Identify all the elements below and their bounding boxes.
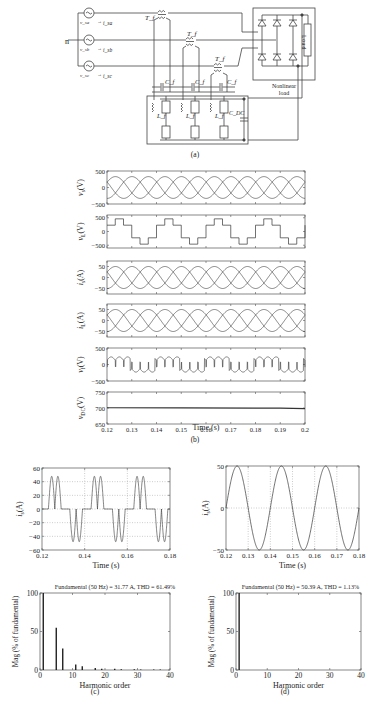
y-tick-label: 0 (102, 317, 105, 324)
x-tick-label: 0.14 (79, 552, 92, 560)
x-tick-label: 0.18 (250, 426, 261, 433)
chart-b2: 5000−500vL(V) (76, 214, 305, 249)
y-tick-label: 60 (33, 465, 41, 473)
chart-c2: 100500010203040Mag (% of fundamental)Har… (12, 583, 175, 690)
x-tick-label: 30 (326, 671, 334, 680)
y-tick-label: 50 (31, 627, 39, 636)
y-axis-label: Mag (% of fundamental) (12, 595, 20, 667)
panel-a-caption: (a) (191, 150, 200, 159)
panel-c-caption: (c) (91, 687, 100, 696)
data-series (107, 267, 305, 289)
source-c-label: v_sc (80, 73, 90, 78)
plot-frame (107, 304, 305, 337)
x-axis-label: Time (s) (279, 561, 306, 570)
load-label: Load (301, 35, 307, 50)
y-axis-label: is(A) (15, 501, 25, 517)
x-tick-label: 0.15 (286, 552, 299, 560)
x-tick-label: 0.13 (242, 552, 255, 560)
load-caption-line1: Nonlinear (272, 83, 296, 89)
y-axis-label: is(A) (201, 500, 211, 516)
x-tick-label: 30 (134, 671, 142, 680)
chart-d2: 100500010203040Mag (% of fundamental)Har… (208, 583, 365, 690)
data-series (107, 310, 305, 332)
transformer-1-label: T_f (145, 14, 155, 22)
y-tick-label: −50 (95, 285, 105, 292)
y-tick-label: 750 (95, 389, 105, 396)
chart-b4: 500−50iL(A) (76, 304, 305, 337)
arrow-a-icon: → (97, 19, 102, 24)
panel-cd-charts: 6040200−20−40−600.120.140.160.18is(A)Tim… (12, 463, 366, 690)
chart-title: Fundamental (50 Hz) = 31.77 A, THD = 61.… (55, 583, 175, 591)
plot-frame (236, 593, 361, 670)
source-a-label: v_sa (80, 20, 90, 25)
panel-b-xlabel: Time (s) (192, 423, 219, 432)
y-tick-label: 0 (221, 505, 225, 513)
y-tick-label: 50 (227, 627, 235, 636)
x-tick-label: 0.18 (353, 552, 366, 560)
x-tick-label: 40 (357, 671, 365, 680)
chart-b3: 500−50is(A) (76, 261, 305, 294)
x-tick-label: 0.14 (151, 426, 163, 433)
data-series (42, 476, 170, 541)
y-axis-label: vDC(V) (76, 396, 86, 419)
chart-title: Fundamental (50 Hz) = 50.39 A, THD = 1.1… (242, 583, 359, 591)
x-tick-label: 0 (234, 671, 238, 680)
x-tick-label: 0.12 (36, 552, 49, 560)
y-axis-label: vL(V) (76, 222, 86, 240)
filter-ind-2-label: L_f (185, 112, 196, 119)
filter-capacitor-1-icon (161, 83, 163, 91)
source-b-label: v_sb (80, 47, 90, 52)
y-tick-label: −500 (92, 378, 105, 385)
current-b-label: i_sb (103, 47, 112, 53)
filter-cap-3-label: C_f (227, 78, 238, 85)
neutral-label: n (65, 37, 69, 46)
y-tick-label: 50 (217, 463, 225, 471)
data-series (107, 267, 305, 289)
y-tick-label: 50 (99, 306, 106, 313)
y-tick-label: 50 (99, 263, 106, 270)
y-tick-label: 0 (37, 506, 41, 514)
y-tick-label: 500 (95, 168, 105, 175)
x-tick-label: 20 (295, 671, 303, 680)
x-tick-label: 0.2 (301, 426, 309, 433)
y-tick-label: 500 (95, 345, 105, 352)
filter-cap-1-label: C_f (165, 78, 176, 85)
chart-c1: 6040200−20−40−600.120.140.160.18is(A)Tim… (15, 465, 177, 570)
y-tick-label: −500 (92, 242, 105, 249)
data-series (107, 310, 305, 332)
x-tick-label: 0.19 (275, 426, 286, 433)
x-tick-label: 0.17 (331, 552, 344, 560)
panel-b-charts: 5000−500vs(V)500−50is(A)500−50iL(A)5000−… (76, 168, 309, 433)
arrow-c-icon: → (97, 72, 102, 77)
data-series (107, 267, 305, 289)
x-tick-label: 20 (101, 671, 109, 680)
data-series (107, 177, 305, 199)
data-series (107, 177, 305, 199)
y-axis-label: is(A) (76, 269, 86, 285)
data-series (107, 177, 305, 199)
y-tick-label: 0 (102, 184, 105, 191)
transformer-2-label: T_f (187, 30, 197, 38)
filter-ind-3-label: L_f (214, 112, 225, 119)
current-a-label: i_sa (103, 20, 112, 26)
y-tick-label: 0 (102, 361, 105, 368)
y-tick-label: 20 (33, 492, 41, 500)
y-tick-label: −20 (29, 519, 40, 527)
chart-d1: 500−500.120.130.140.150.160.170.18is(A)T… (201, 463, 366, 570)
data-series (107, 357, 305, 372)
y-tick-label: −500 (92, 201, 105, 208)
data-series (107, 310, 305, 332)
plot-frame (107, 261, 305, 294)
plot-frame (40, 593, 170, 670)
x-tick-label: 0.12 (101, 426, 112, 433)
x-tick-label: 0.14 (264, 552, 277, 560)
x-tick-label: 0.13 (126, 426, 137, 433)
y-axis-label: iL(A) (76, 312, 86, 329)
chart-b5: 5000−500vf(V) (76, 345, 305, 385)
x-tick-label: 0.18 (164, 552, 177, 560)
y-tick-label: −40 (29, 533, 40, 541)
diode-bridge-icon (258, 15, 302, 66)
y-axis-label: Mag (% of fundamental) (208, 595, 216, 667)
x-tick-label: 0.15 (176, 426, 187, 433)
y-tick-label: 100 (223, 589, 235, 598)
